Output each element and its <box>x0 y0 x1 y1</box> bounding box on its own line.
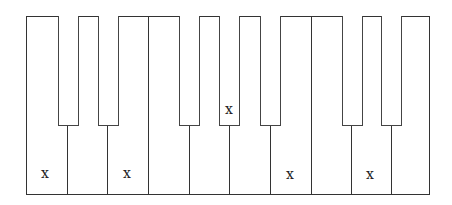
mark-b: x <box>286 167 294 181</box>
black-key-c-sharp[interactable] <box>58 16 79 126</box>
black-key-f-sharp[interactable] <box>179 16 200 126</box>
mark-c: x <box>41 166 49 180</box>
black-key-a-sharp[interactable] <box>260 16 281 126</box>
mark-g-sharp: x <box>225 102 233 116</box>
black-key-d-sharp-2[interactable] <box>381 16 402 126</box>
black-key-d-sharp[interactable] <box>98 16 119 126</box>
black-key-c-sharp-2[interactable] <box>342 16 363 126</box>
mark-d: x <box>366 167 374 181</box>
piano-keyboard: x x x x x <box>26 16 430 195</box>
mark-e: x <box>123 166 131 180</box>
